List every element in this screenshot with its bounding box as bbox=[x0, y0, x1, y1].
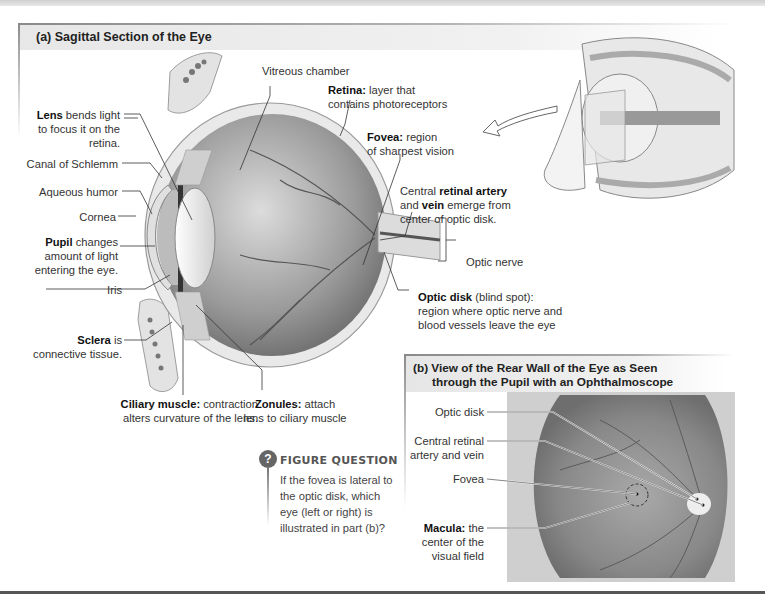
figure-question-line: eye (left or right) is bbox=[280, 504, 393, 520]
label-lens: Lens bends light bbox=[20, 108, 120, 122]
label-pupil-line3: entering the eye. bbox=[10, 263, 118, 277]
label-ciliary-muscle: Ciliary muscle: contraction bbox=[98, 397, 258, 411]
label-zonules: Zonules: attach bbox=[236, 397, 354, 411]
label-fovea: Fovea: region bbox=[367, 130, 437, 144]
label-b-macula-line2: center of the bbox=[400, 535, 484, 549]
panel-b-title-line2: through the Pupil with an Ophthalmoscope bbox=[432, 375, 673, 389]
bottom-rule bbox=[0, 591, 765, 594]
label-optic-disk: Optic disk (blind spot): bbox=[418, 290, 534, 304]
figure-question-title: FIGURE QUESTION bbox=[280, 454, 398, 467]
label-b-optic-disk: Optic disk bbox=[400, 405, 484, 419]
label-zonules-line2: lens to ciliary muscle bbox=[236, 411, 354, 425]
label-sclera: Sclera is bbox=[10, 333, 122, 347]
label-b-retinal-artery-line2: artery and vein bbox=[400, 448, 484, 462]
label-aqueous-humor: Aqueous humor bbox=[10, 185, 118, 199]
figure-question-text: If the fovea is lateral to the optic dis… bbox=[280, 472, 393, 536]
question-icon: ? bbox=[259, 450, 277, 468]
figure-question-line: If the fovea is lateral to bbox=[280, 472, 393, 488]
figure-question-line: illustrated in part (b)? bbox=[280, 520, 393, 536]
label-vitreous-chamber: Vitreous chamber bbox=[262, 64, 349, 78]
skull-orbit-inset bbox=[544, 38, 734, 198]
label-b-fovea: Fovea bbox=[400, 472, 484, 486]
label-lens-line2: to focus it on the bbox=[20, 122, 120, 136]
label-iris: Iris bbox=[10, 283, 122, 297]
label-retina: Retina: layer that bbox=[328, 83, 415, 97]
label-optic-nerve: Optic nerve bbox=[466, 255, 523, 269]
label-pupil: Pupil changes bbox=[10, 235, 118, 249]
label-sclera-line2: connective tissue. bbox=[10, 347, 122, 361]
fundus-photo bbox=[487, 392, 735, 582]
label-canal-of-schlemm: Canal of Schlemm bbox=[10, 157, 118, 171]
label-b-macula-line3: visual field bbox=[400, 549, 484, 563]
panel-b-title-line1: (b) View of the Rear Wall of the Eye as … bbox=[413, 361, 658, 375]
upper-eyelid bbox=[168, 53, 222, 113]
label-optic-disk-line2: region where optic nerve and bbox=[418, 304, 562, 318]
label-cornea: Cornea bbox=[10, 210, 116, 224]
label-fovea-line2: of sharpest vision bbox=[367, 144, 454, 158]
label-retina-line2: contains photoreceptors bbox=[328, 97, 447, 111]
label-b-retinal-artery: Central retinal bbox=[400, 434, 484, 448]
label-lens-line3: retina. bbox=[20, 136, 120, 150]
label-retinal-artery-line3: center of optic disk. bbox=[400, 212, 496, 226]
label-retinal-artery-line2: and vein emerge from bbox=[400, 198, 511, 212]
figure-question-line: the optic disk, which bbox=[280, 488, 393, 504]
question-stem-line bbox=[267, 468, 269, 526]
label-retinal-artery: Central retinal artery bbox=[400, 184, 507, 198]
label-b-macula: Macula: the bbox=[400, 521, 484, 535]
label-pupil-line2: amount of light bbox=[10, 249, 118, 263]
label-ciliary-muscle-line2: alters curvature of the lens. bbox=[98, 411, 258, 425]
label-optic-disk-line3: blood vessels leave the eye bbox=[418, 318, 555, 332]
